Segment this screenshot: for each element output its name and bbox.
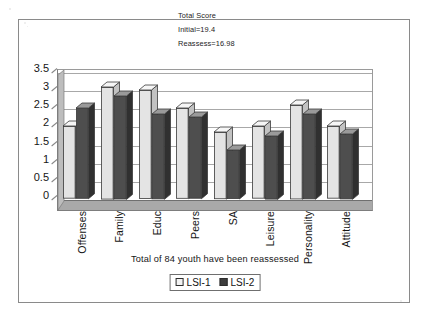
- bar-lsi-2-educ[interactable]: [152, 116, 165, 201]
- bars-layer: [58, 70, 372, 210]
- bar-3d-shape: [152, 109, 173, 201]
- chart-legend: LSI-1LSI-2: [170, 274, 261, 291]
- y-axis-tick-label: 3.5: [34, 62, 49, 74]
- bar-lsi-2-peers[interactable]: [189, 119, 202, 201]
- x-axis-label-family: Family: [113, 211, 125, 243]
- bar-3d-shape: [265, 131, 286, 202]
- y-axis-tick-label: 0: [43, 189, 49, 201]
- y-axis: 00.511.522.533.5: [15, 61, 57, 211]
- x-axis-label-educ: Educ: [151, 211, 163, 235]
- legend-item-lsi-1[interactable]: LSI-1: [176, 277, 211, 288]
- legend-label: LSI-1: [187, 277, 211, 288]
- chart-caption: Total of 84 youth have been reassessed: [0, 254, 430, 264]
- bar-3d-shape: [114, 91, 135, 201]
- bar-lsi-1-sa[interactable]: [214, 134, 227, 201]
- bar-lsi-2-leisure[interactable]: [265, 138, 278, 202]
- bar-lsi-1-family[interactable]: [101, 89, 114, 201]
- bar-group: [251, 70, 289, 201]
- y-axis-tick-label: 3: [43, 80, 49, 92]
- annotation-initial: Initial=19.4: [178, 26, 368, 33]
- x-axis-label-sa: SA: [227, 211, 239, 225]
- bar-lsi-1-peers[interactable]: [176, 110, 189, 201]
- bar-lsi-2-family[interactable]: [114, 98, 127, 201]
- x-axis-label-leisure: Leisure: [264, 211, 276, 246]
- y-axis-tick-label: 0.5: [34, 171, 49, 183]
- y-axis-tick-label: 2.5: [34, 98, 49, 110]
- bar-group: [326, 70, 364, 201]
- plot-area: [57, 69, 373, 211]
- annotation-total-score: Total Score: [178, 12, 368, 19]
- x-axis-label-attitude: Attitude: [340, 211, 352, 247]
- legend-swatch-icon: [176, 278, 184, 286]
- bar-group: [213, 70, 251, 201]
- annotation-reassess: Reassess=16.98: [178, 40, 368, 47]
- bar-lsi-2-personality[interactable]: [303, 116, 316, 201]
- bar-3d-shape: [303, 109, 324, 201]
- bar-lsi-1-attitude[interactable]: [327, 128, 340, 201]
- y-axis-tick-label: 1: [43, 153, 49, 165]
- plot-region: 00.511.522.533.5: [15, 61, 377, 211]
- bar-lsi-1-leisure[interactable]: [252, 128, 265, 201]
- bar-lsi-2-offenses[interactable]: [76, 110, 89, 201]
- bar-lsi-1-offenses[interactable]: [63, 128, 76, 201]
- bar-lsi-1-educ[interactable]: [139, 92, 152, 201]
- bar-group: [175, 70, 213, 201]
- y-axis-tick-label: 2: [43, 116, 49, 128]
- chart-annotation-block: Total Score Initial=19.4 Reassess=16.98: [178, 12, 368, 54]
- bar-lsi-1-personality[interactable]: [290, 107, 303, 201]
- x-axis-label-peers: Peers: [189, 211, 201, 239]
- bar-lsi-2-attitude[interactable]: [340, 136, 353, 201]
- bar-group: [100, 70, 138, 201]
- legend-swatch-icon: [220, 278, 228, 286]
- scan-artifact: [24, 22, 26, 24]
- scan-artifact: [9, 8, 11, 10]
- bar-group: [289, 70, 327, 201]
- legend-label: LSI-2: [231, 277, 255, 288]
- bar-3d-shape: [227, 145, 248, 201]
- bar-3d-shape: [76, 103, 97, 201]
- bar-3d-shape: [340, 129, 361, 201]
- bar-group: [138, 70, 176, 201]
- scan-artifact: [400, 300, 402, 302]
- bar-3d-shape: [189, 112, 210, 201]
- x-axis-label-offenses: Offenses: [76, 211, 88, 254]
- bar-group: [62, 70, 100, 201]
- bar-lsi-2-sa[interactable]: [227, 152, 240, 201]
- legend-item-lsi-2[interactable]: LSI-2: [220, 277, 255, 288]
- y-axis-tick-label: 1.5: [34, 135, 49, 147]
